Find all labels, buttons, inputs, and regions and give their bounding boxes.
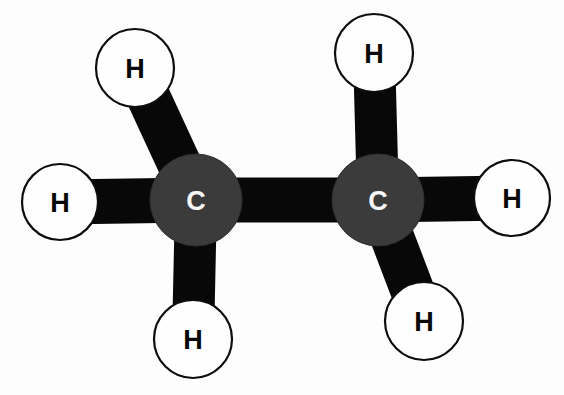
- atom-h2: H: [22, 164, 98, 240]
- atom-h1: H: [96, 29, 174, 107]
- atom-label-h6: H: [414, 307, 434, 337]
- atom-label-c1: C: [186, 186, 206, 216]
- molecule-diagram-canvas: CCHHHHHH: [0, 0, 564, 395]
- atom-label-h3: H: [183, 325, 203, 355]
- atom-c1: C: [150, 154, 242, 246]
- atom-label-c2: C: [368, 186, 388, 216]
- atom-h3: H: [154, 300, 232, 378]
- atom-h5: H: [474, 160, 550, 236]
- atom-label-h2: H: [50, 188, 70, 218]
- atom-h6: H: [385, 282, 463, 360]
- atom-label-h4: H: [364, 39, 384, 69]
- atom-label-h1: H: [125, 54, 145, 84]
- atom-label-h5: H: [502, 184, 522, 214]
- atom-c2: C: [332, 154, 424, 246]
- ethane-ball-and-stick-diagram: CCHHHHHH: [0, 0, 564, 395]
- atom-h4: H: [335, 14, 413, 92]
